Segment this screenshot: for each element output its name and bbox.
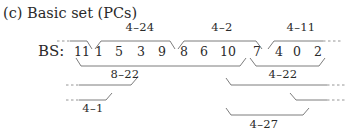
lower-bracket-4-22 (250, 58, 325, 66)
segment-label-8-22: 8–22 (111, 67, 140, 81)
upper-bracket-4-2 (178, 41, 262, 49)
upper-bracket-4-11 (268, 41, 323, 49)
lower-bracket-4-27 (226, 108, 309, 115)
lower-bracket-8-22 (76, 58, 246, 66)
lower-bracket-4-1 (79, 93, 112, 100)
segment-label-4-22: 4–22 (269, 67, 298, 81)
segment-label-4-24: 4–24 (126, 20, 155, 34)
segment-label-4-2: 4–2 (211, 20, 232, 34)
lower-bracket-open-right-2 (290, 93, 327, 100)
upper-bracket-4-24 (95, 41, 175, 49)
segment-label-4-1: 4–1 (82, 101, 103, 115)
segment-label-4-11: 4–11 (287, 20, 316, 34)
upper-bracket-continuation (70, 41, 92, 49)
segment-label-4-27: 4–27 (250, 117, 279, 131)
